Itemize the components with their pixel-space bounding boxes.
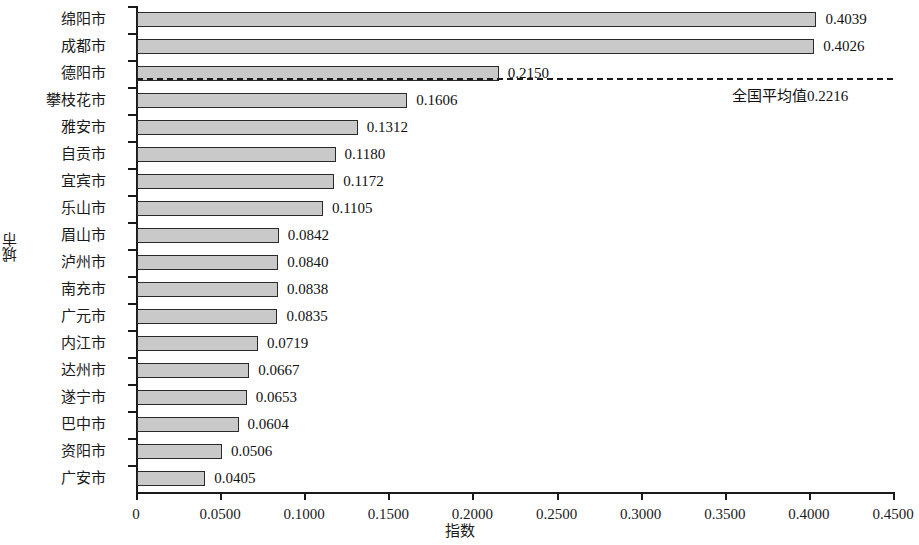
bar-value-label: 0.1105 — [332, 197, 373, 219]
bar — [137, 471, 205, 486]
bar — [137, 120, 358, 135]
bar-value-label: 0.1172 — [343, 170, 384, 192]
bar-row: 巴中市0.0604 — [136, 411, 893, 438]
y-axis-tick — [128, 60, 136, 62]
bar — [137, 417, 239, 432]
category-label: 绵阳市 — [0, 6, 106, 32]
category-label: 泸州市 — [0, 249, 106, 275]
category-label: 达州市 — [0, 357, 106, 383]
category-label: 广元市 — [0, 303, 106, 329]
category-label: 成都市 — [0, 33, 106, 59]
bar — [137, 309, 277, 324]
x-axis-tick — [388, 492, 390, 500]
bar-row: 南充市0.0838 — [136, 276, 893, 303]
x-axis-tick — [220, 492, 222, 500]
bar-value-label: 0.0842 — [288, 224, 329, 246]
category-label: 眉山市 — [0, 222, 106, 248]
y-axis-tick — [128, 384, 136, 386]
x-axis-tick — [136, 492, 138, 500]
bar-row: 遂宁市0.0653 — [136, 384, 893, 411]
x-axis-tick — [304, 492, 306, 500]
bar-value-label: 0.2150 — [508, 62, 549, 84]
y-axis-tick — [128, 168, 136, 170]
bar-value-label: 0.0838 — [287, 278, 328, 300]
category-label: 广安市 — [0, 465, 106, 491]
y-axis-tick — [128, 438, 136, 440]
category-label: 内江市 — [0, 330, 106, 356]
bar-row: 内江市0.0719 — [136, 330, 893, 357]
x-axis-tick — [641, 492, 643, 500]
bar — [137, 336, 258, 351]
bar — [137, 174, 334, 189]
y-axis-tick — [128, 114, 136, 116]
x-axis-tick — [557, 492, 559, 500]
bar-chart: 城市 绵阳市0.4039成都市0.4026德阳市0.2150攀枝花市0.1606… — [0, 0, 919, 545]
y-axis-tick — [128, 222, 136, 224]
bar — [137, 390, 247, 405]
bar-value-label: 0.0835 — [286, 305, 327, 327]
y-axis-tick — [128, 141, 136, 143]
national-average-label: 全国平均值0.2216 — [732, 86, 848, 106]
bar-row: 德阳市0.2150 — [136, 60, 893, 87]
bar-value-label: 0.1312 — [367, 116, 408, 138]
bar-row: 自贡市0.1180 — [136, 141, 893, 168]
bar-value-label: 0.4026 — [823, 35, 864, 57]
bar — [137, 201, 323, 216]
category-label: 巴中市 — [0, 411, 106, 437]
bar — [137, 255, 278, 270]
category-label: 遂宁市 — [0, 384, 106, 410]
bar-value-label: 0.1180 — [345, 143, 386, 165]
y-axis-tick — [128, 465, 136, 467]
x-axis-title: 指数 — [0, 519, 919, 540]
bar-value-label: 0.1606 — [416, 89, 457, 111]
bar-row: 泸州市0.0840 — [136, 249, 893, 276]
y-axis-tick — [128, 276, 136, 278]
x-axis-tick — [725, 492, 727, 500]
x-axis-tick — [809, 492, 811, 500]
category-label: 攀枝花市 — [0, 87, 106, 113]
bar — [137, 39, 814, 54]
bar-value-label: 0.4039 — [825, 8, 866, 30]
bar-row: 广元市0.0835 — [136, 303, 893, 330]
y-axis-tick — [128, 195, 136, 197]
bar — [137, 282, 278, 297]
bar — [137, 363, 249, 378]
bar-value-label: 0.0653 — [256, 386, 297, 408]
x-axis-tick — [893, 492, 895, 500]
category-label: 自贡市 — [0, 141, 106, 167]
bar-row: 眉山市0.0842 — [136, 222, 893, 249]
national-average-dashed-line — [137, 78, 893, 80]
bar-row: 资阳市0.0506 — [136, 438, 893, 465]
bar-value-label: 0.0604 — [248, 413, 289, 435]
x-axis-line — [136, 492, 893, 494]
x-axis-tick — [472, 492, 474, 500]
y-axis-tick — [128, 249, 136, 251]
bar — [137, 12, 816, 27]
category-label: 资阳市 — [0, 438, 106, 464]
bar-row: 乐山市0.1105 — [136, 195, 893, 222]
y-axis-tick — [128, 6, 136, 8]
bar-value-label: 0.0667 — [258, 359, 299, 381]
bar-row: 成都市0.4026 — [136, 33, 893, 60]
bar-row: 宜宾市0.1172 — [136, 168, 893, 195]
bar — [137, 228, 279, 243]
y-axis-tick — [128, 87, 136, 89]
category-label: 南充市 — [0, 276, 106, 302]
bar-row: 广安市0.0405 — [136, 465, 893, 492]
bar — [137, 147, 336, 162]
bar-value-label: 0.0405 — [214, 467, 255, 489]
bar-row: 雅安市0.1312 — [136, 114, 893, 141]
bar-value-label: 0.0840 — [287, 251, 328, 273]
bar-value-label: 0.0719 — [267, 332, 308, 354]
y-axis-tick — [128, 357, 136, 359]
y-axis-tick — [128, 330, 136, 332]
bar-row: 达州市0.0667 — [136, 357, 893, 384]
bar-row: 绵阳市0.4039 — [136, 6, 893, 33]
bar — [137, 93, 407, 108]
y-axis-tick — [128, 33, 136, 35]
plot-area: 绵阳市0.4039成都市0.4026德阳市0.2150攀枝花市0.1606雅安市… — [136, 6, 893, 493]
category-label: 宜宾市 — [0, 168, 106, 194]
y-axis-tick — [128, 411, 136, 413]
y-axis-tick — [128, 303, 136, 305]
category-label: 德阳市 — [0, 60, 106, 86]
